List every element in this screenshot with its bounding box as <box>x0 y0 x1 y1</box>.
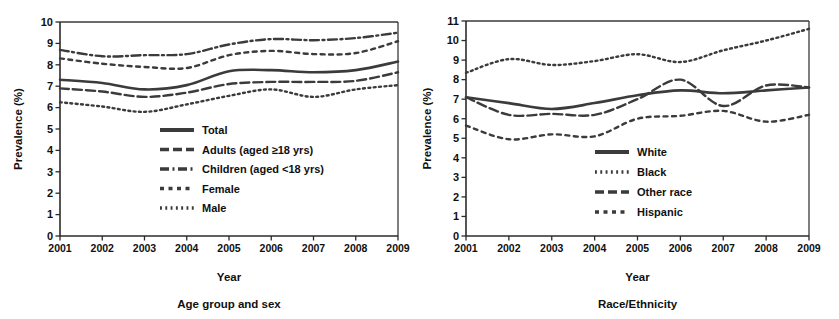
y-axis-tick-label: 8 <box>453 73 459 85</box>
figure-container: 0123456789102001200220032004200520062007… <box>0 0 839 319</box>
y-axis-tick-label: 1 <box>453 210 459 222</box>
chart-svg-age-group-and-sex: 0123456789102001200220032004200520062007… <box>0 0 420 319</box>
x-axis-tick-label: 2006 <box>669 242 693 254</box>
y-axis-tick-label: 10 <box>447 34 459 46</box>
x-axis-tick-label: 2008 <box>344 242 368 254</box>
legend-label: Female <box>202 183 240 195</box>
y-axis-tick-label: 7 <box>453 93 459 105</box>
y-axis-tick-label: 9 <box>47 37 53 49</box>
x-axis-tick-label: 2002 <box>91 242 115 254</box>
chart-panel-race-ethnicity: 0123456789101120012002200320042005200620… <box>419 0 839 319</box>
x-axis-tick-label: 2003 <box>540 242 564 254</box>
y-axis-tick-label: 4 <box>47 144 54 156</box>
chart-svg-race-ethnicity: 0123456789101120012002200320042005200620… <box>419 0 839 319</box>
y-axis-tick-label: 6 <box>453 113 459 125</box>
x-axis-tick-label: 2003 <box>133 242 157 254</box>
x-axis-tick-label: 2009 <box>797 242 821 254</box>
y-axis-tick-label: 5 <box>47 123 53 135</box>
legend-label: Hispanic <box>637 206 683 218</box>
x-axis-tick-label: 2005 <box>626 242 650 254</box>
legend-label: Adults (aged ≥18 yrs) <box>202 144 314 156</box>
legend-label: Other race <box>637 186 692 198</box>
y-axis-title: Prevalence (%) <box>12 88 24 170</box>
x-axis-tick-label: 2004 <box>583 242 607 254</box>
x-axis-tick-label: 2009 <box>386 242 410 254</box>
panel-caption: Age group and sex <box>177 298 281 310</box>
legend-label: Total <box>202 124 227 136</box>
x-axis-tick-label: 2007 <box>712 242 736 254</box>
y-axis-tick-label: 7 <box>47 80 53 92</box>
y-axis-tick-label: 10 <box>41 16 53 28</box>
x-axis-tick-label: 2008 <box>754 242 778 254</box>
y-axis-tick-label: 4 <box>453 152 460 164</box>
x-axis-tick-label: 2001 <box>454 242 478 254</box>
x-axis-title: Year <box>217 271 242 283</box>
y-axis-tick-label: 8 <box>47 59 53 71</box>
y-axis-tick-label: 3 <box>453 171 459 183</box>
chart-panel-age-group-and-sex: 0123456789102001200220032004200520062007… <box>0 0 420 319</box>
y-axis-tick-label: 1 <box>47 208 53 220</box>
y-axis-tick-label: 2 <box>453 191 459 203</box>
y-axis-tick-label: 2 <box>47 187 53 199</box>
x-axis-tick-label: 2004 <box>175 242 199 254</box>
y-axis-tick-label: 11 <box>447 15 459 27</box>
y-axis-tick-label: 3 <box>47 166 53 178</box>
x-axis-tick-label: 2001 <box>48 242 72 254</box>
legend-label: Black <box>637 166 667 178</box>
y-axis-tick-label: 9 <box>453 54 459 66</box>
x-axis-tick-label: 2006 <box>260 242 284 254</box>
legend-label: White <box>637 146 667 158</box>
x-axis-title: Year <box>625 271 650 283</box>
y-axis-title: Prevalence (%) <box>421 87 433 169</box>
y-axis-tick-label: 0 <box>47 230 53 242</box>
legend-label: Children (aged <18 yrs) <box>202 163 324 175</box>
panel-caption: Race/Ethnicity <box>598 298 678 310</box>
x-axis-tick-label: 2007 <box>302 242 326 254</box>
x-axis-tick-label: 2002 <box>497 242 521 254</box>
x-axis-tick-label: 2005 <box>217 242 241 254</box>
y-axis-tick-label: 6 <box>47 101 53 113</box>
y-axis-tick-label: 5 <box>453 132 459 144</box>
y-axis-tick-label: 0 <box>453 230 459 242</box>
legend-label: Male <box>202 202 226 214</box>
